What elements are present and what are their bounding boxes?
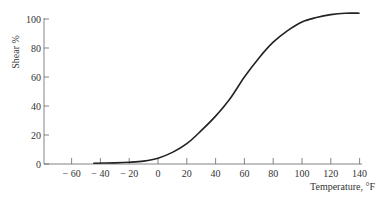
x-tick-label: 120: [323, 168, 338, 179]
ticks: 020406080100− 60− 40− 200204060801001201…: [26, 14, 367, 180]
y-tick-label: 100: [26, 14, 41, 25]
y-tick-label: 60: [31, 72, 41, 83]
x-tick-label: − 60: [63, 168, 81, 179]
axes: [44, 18, 362, 164]
y-tick-label: 40: [31, 101, 41, 112]
y-tick-label: 80: [31, 43, 41, 54]
y-tick-label: 0: [36, 159, 41, 170]
x-tick-label: − 20: [120, 168, 138, 179]
x-tick-label: 60: [239, 168, 249, 179]
x-tick-label: − 40: [91, 168, 109, 179]
shear-temperature-chart: 020406080100− 60− 40− 200204060801001201…: [0, 0, 384, 199]
shear-curve: [93, 13, 359, 163]
x-tick-label: 80: [268, 168, 278, 179]
x-tick-label: 140: [352, 168, 367, 179]
x-tick-label: 20: [182, 168, 192, 179]
x-axis-title: Temperature, °F: [310, 181, 375, 192]
x-tick-label: 0: [156, 168, 161, 179]
y-axis-title: Shear %: [10, 35, 21, 69]
x-tick-label: 40: [211, 168, 221, 179]
x-tick-label: 100: [295, 168, 310, 179]
y-tick-label: 20: [31, 130, 41, 141]
